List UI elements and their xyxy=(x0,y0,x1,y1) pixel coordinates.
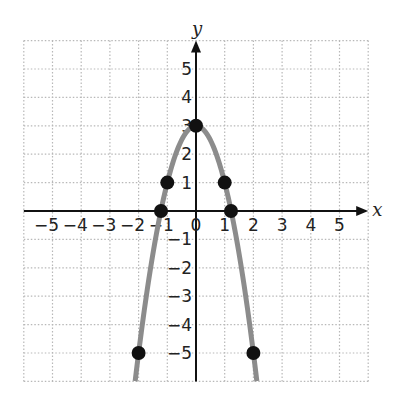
x-axis-arrow-icon xyxy=(356,206,368,216)
data-point xyxy=(160,176,174,190)
x-tick-label: 1 xyxy=(219,215,230,235)
x-tick-label: −5 xyxy=(34,215,59,235)
x-tick-label: 4 xyxy=(305,215,316,235)
data-point xyxy=(246,346,260,360)
y-tick-label: 4 xyxy=(181,87,192,107)
data-point xyxy=(132,346,146,360)
x-tick-label: −3 xyxy=(91,215,116,235)
y-axis-arrow-icon xyxy=(191,41,201,53)
x-tick-label: 2 xyxy=(248,215,259,235)
axes xyxy=(24,41,368,382)
y-tick-label: −5 xyxy=(167,343,192,363)
y-tick-label: −4 xyxy=(167,315,192,335)
data-point xyxy=(218,176,232,190)
y-tick-label: 1 xyxy=(181,173,192,193)
y-tick-label: 2 xyxy=(181,144,192,164)
x-tick-label: 5 xyxy=(334,215,345,235)
data-point xyxy=(189,119,203,133)
y-tick-label: −3 xyxy=(167,286,192,306)
x-tick-label: 3 xyxy=(277,215,288,235)
x-tick-label: −2 xyxy=(120,215,145,235)
y-tick-label: 5 xyxy=(181,59,192,79)
x-tick-label: −4 xyxy=(63,215,88,235)
y-tick-label: −1 xyxy=(167,229,192,249)
x-axis-label: x xyxy=(372,199,382,220)
data-point xyxy=(224,204,238,218)
y-tick-label: −2 xyxy=(167,258,192,278)
x-tick-label: 0 xyxy=(191,215,202,235)
y-axis-label: y xyxy=(191,18,203,39)
parabola-graph: −5−4−3−2−101234554321−1−2−3−4−5 x y xyxy=(0,0,404,397)
data-point xyxy=(154,204,168,218)
